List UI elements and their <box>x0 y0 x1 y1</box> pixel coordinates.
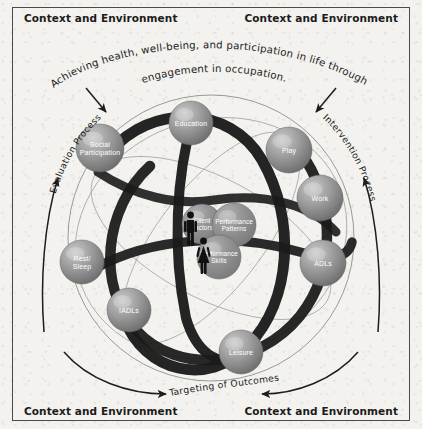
orbit-artwork: EducationSocialParticipationPlayWorkADLs… <box>0 0 422 429</box>
education-label: Education <box>175 120 207 127</box>
iadls-label: IADLs <box>119 307 139 314</box>
sphere-leisure[interactable]: Leisure <box>219 330 263 374</box>
sphere-rest-sleep[interactable]: Rest/Sleep <box>60 240 104 284</box>
play-label: Play <box>282 147 297 155</box>
diagram-page: EducationSocialParticipationPlayWorkADLs… <box>0 0 422 429</box>
sphere-play[interactable]: Play <box>266 127 312 173</box>
context-label-bottom-left: Context and Environment <box>24 405 178 417</box>
rest-sleep-label: Rest/Sleep <box>73 255 92 271</box>
sphere-iadls[interactable]: IADLs <box>107 288 151 332</box>
sphere-adls[interactable]: ADLs <box>300 240 346 286</box>
adls-label: ADLs <box>314 260 332 267</box>
leisure-label: Leisure <box>229 349 253 356</box>
context-label-bottom-right: Context and Environment <box>244 405 398 417</box>
diagram-stage: EducationSocialParticipationPlayWorkADLs… <box>0 0 422 429</box>
work-label: Work <box>312 195 329 202</box>
context-label-top-right: Context and Environment <box>244 12 398 24</box>
sphere-work[interactable]: Work <box>297 175 343 221</box>
arc-title-line2: engagement in occupation. <box>140 63 288 85</box>
sphere-education[interactable]: Education <box>169 101 213 145</box>
context-label-top-left: Context and Environment <box>24 12 178 24</box>
